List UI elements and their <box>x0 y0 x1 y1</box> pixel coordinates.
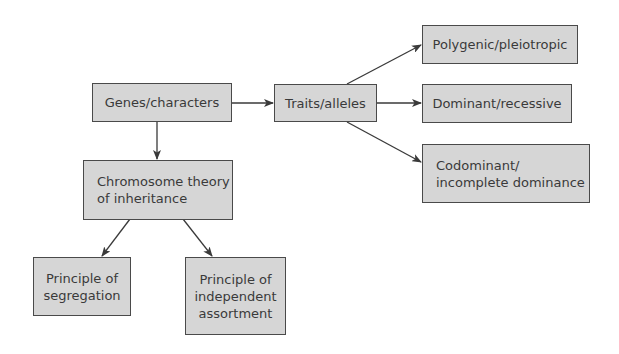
concept-map: Genes/characters Traits/alleles Polygeni… <box>0 0 619 354</box>
node-dominant-recessive: Dominant/recessive <box>422 84 572 123</box>
node-label: Genes/characters <box>105 94 220 111</box>
node-codominant-incomplete-dominance: Codominant/ incomplete dominance <box>422 144 590 203</box>
node-genes-characters: Genes/characters <box>92 83 232 122</box>
node-traits-alleles: Traits/alleles <box>274 84 377 122</box>
arrow-chromosome-to-segregation <box>102 219 130 256</box>
node-label: Principle of independent assortment <box>194 271 276 322</box>
node-label: Traits/alleles <box>285 95 366 112</box>
node-label: Codominant/ incomplete dominance <box>436 157 585 191</box>
node-label: Polygenic/pleiotropic <box>433 36 568 53</box>
node-chromosome-theory: Chromosome theory of inheritance <box>83 160 233 220</box>
node-polygenic-pleiotropic: Polygenic/pleiotropic <box>422 25 578 64</box>
node-label: Chromosome theory of inheritance <box>97 173 230 207</box>
node-label: Dominant/recessive <box>432 95 561 112</box>
arrow-traits-to-polygenic <box>347 45 421 84</box>
arrow-traits-to-codominant <box>347 122 421 162</box>
arrow-chromosome-to-independent <box>183 219 212 256</box>
node-principle-of-independent-assortment: Principle of independent assortment <box>185 257 286 335</box>
node-principle-of-segregation: Principle of segregation <box>33 257 131 316</box>
node-label: Principle of segregation <box>43 270 120 304</box>
